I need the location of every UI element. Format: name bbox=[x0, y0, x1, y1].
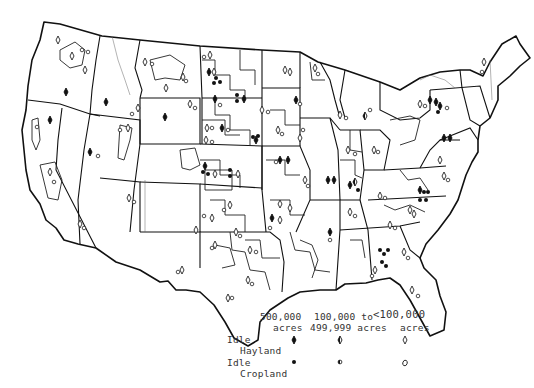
us-outline bbox=[22, 22, 530, 346]
state-boundaries bbox=[28, 36, 490, 292]
region-boundaries bbox=[32, 42, 428, 290]
map-figure: 500,000 acres 100,000 to 499,999 acres <… bbox=[0, 0, 534, 388]
idle-land-markers bbox=[35, 36, 486, 302]
minor-lines bbox=[112, 36, 492, 232]
us-map bbox=[0, 0, 534, 388]
